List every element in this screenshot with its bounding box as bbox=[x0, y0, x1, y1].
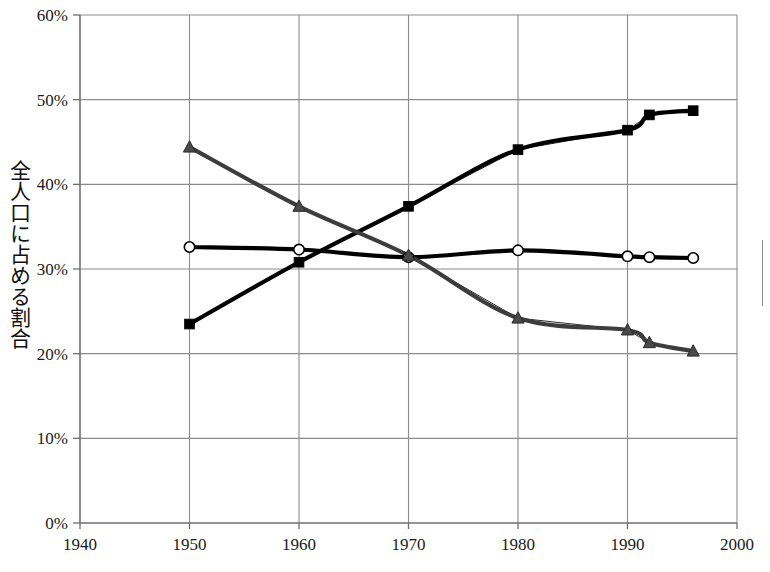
chart-background bbox=[0, 0, 770, 572]
y-tick-label: 30% bbox=[37, 260, 68, 279]
y-tick-label: 60% bbox=[37, 6, 68, 25]
x-tick-label: 1950 bbox=[173, 535, 207, 554]
y-tick-label: 50% bbox=[37, 91, 68, 110]
legend-box-fragment bbox=[762, 240, 769, 306]
data-point-square bbox=[688, 106, 698, 116]
x-tick-label: 2000 bbox=[720, 535, 754, 554]
data-point-square bbox=[645, 110, 655, 120]
y-tick-label: 20% bbox=[37, 345, 68, 364]
data-point-circle bbox=[184, 242, 194, 252]
x-tick-label: 1980 bbox=[501, 535, 535, 554]
chart-container: 0%10%20%30%40%50%60% 1940195019601970198… bbox=[0, 0, 770, 572]
x-tick-label: 1990 bbox=[611, 535, 645, 554]
y-tick-label: 40% bbox=[37, 175, 68, 194]
x-tick-label: 1940 bbox=[63, 535, 97, 554]
data-point-square bbox=[513, 145, 523, 155]
chart-canvas: 0%10%20%30%40%50%60% 1940195019601970198… bbox=[0, 0, 770, 572]
y-tick-label: 0% bbox=[45, 514, 68, 533]
data-point-circle bbox=[688, 253, 698, 263]
data-point-circle bbox=[622, 251, 632, 261]
data-point-square bbox=[623, 125, 633, 135]
data-point-square bbox=[294, 257, 304, 267]
data-point-circle bbox=[294, 244, 304, 254]
data-point-square bbox=[404, 202, 414, 212]
data-point-square bbox=[185, 319, 195, 329]
y-axis-title: 全人口に占める割合 bbox=[6, 160, 32, 349]
data-point-circle bbox=[644, 252, 654, 262]
data-point-circle bbox=[513, 245, 523, 255]
x-tick-label: 1970 bbox=[392, 535, 426, 554]
y-tick-label: 10% bbox=[37, 429, 68, 448]
x-tick-label: 1960 bbox=[282, 535, 316, 554]
